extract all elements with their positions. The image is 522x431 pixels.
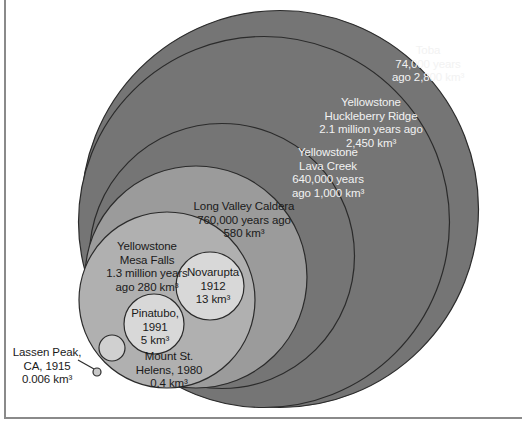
label-pinatubo: Pinatubo, 1991 5 km³ (121, 307, 189, 348)
volcano-volume-figure: Toba 74,000 years ago 2,800 km³ Yellowst… (0, 0, 522, 431)
label-mount-st-helens: Mount St. Helens, 1980 0.4 km³ (123, 350, 215, 391)
label-huckleberry-ridge: Yellowstone Huckleberry Ridge 2.1 millio… (304, 96, 438, 150)
label-toba: Toba 74,000 years ago 2,800 km³ (372, 44, 484, 85)
label-long-valley-caldera: Long Valley Caldera 760,000 years ago 58… (176, 200, 312, 241)
circle-lassen-peak (93, 368, 101, 376)
label-lava-creek: Yellowstone Lava Creek 640,000 years ago… (266, 146, 390, 200)
label-novarupta: Novarupta 1912 13 km³ (179, 266, 247, 307)
label-lassen-peak: Lassen Peak, CA, 1915 0.006 km³ (8, 346, 86, 387)
